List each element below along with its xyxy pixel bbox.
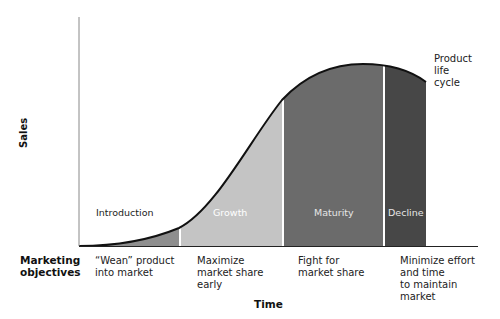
objective-line: Maximize: [197, 255, 263, 267]
objective-line: market share: [298, 267, 364, 279]
objective-line: market: [400, 291, 475, 303]
row-label-line: objectives: [20, 266, 81, 278]
stage-label-introduction: Introduction: [96, 207, 154, 218]
stage-label-decline: Decline: [388, 207, 424, 218]
objective-introduction: “Wean” product into market: [95, 255, 174, 279]
y-axis-label: Sales: [18, 118, 29, 148]
curve-label-line: life: [434, 65, 472, 77]
stage-label-maturity: Maturity: [314, 207, 354, 218]
objective-line: to maintain: [400, 279, 475, 291]
objective-line: Minimize effort: [400, 255, 475, 267]
stage-label-growth: Growth: [213, 207, 247, 218]
objective-line: market share: [197, 267, 263, 279]
objective-line: and time: [400, 267, 475, 279]
x-axis-label: Time: [254, 298, 283, 310]
objective-line: “Wean” product: [95, 255, 174, 267]
objective-line: Fight for: [298, 255, 364, 267]
row-label: Marketing objectives: [20, 254, 81, 278]
objective-decline: Minimize effort and time to maintain mar…: [400, 255, 475, 303]
curve-label-line: cycle: [434, 77, 472, 89]
objective-maturity: Fight for market share: [298, 255, 364, 279]
objective-line: into market: [95, 267, 174, 279]
objective-growth: Maximize market share early: [197, 255, 263, 291]
curve-label: Product life cycle: [434, 53, 472, 89]
objective-line: early: [197, 279, 263, 291]
row-label-line: Marketing: [20, 254, 81, 266]
curve-label-line: Product: [434, 53, 472, 65]
